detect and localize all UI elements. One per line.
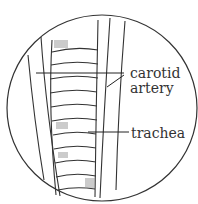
label-artery: artery <box>130 81 174 95</box>
label-trachea: trachea <box>131 126 185 140</box>
label-carotid: carotid <box>130 66 180 80</box>
magnifier-circle <box>7 15 197 201</box>
neck-illustration <box>0 0 198 204</box>
trachea-drawing <box>28 18 125 198</box>
